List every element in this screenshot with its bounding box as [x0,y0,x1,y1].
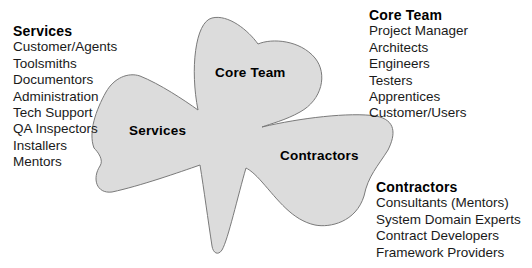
contractors-group: Contractors Consultants (Mentors) System… [376,179,521,261]
core-team-title: Core Team [369,7,468,23]
list-item: Toolsmiths [13,56,117,72]
lobe-label-contractors: Contractors [280,148,359,163]
services-title: Services [13,23,117,39]
list-item: Installers [13,138,117,154]
list-item: Testers [369,73,468,89]
list-item: QA Inspectors [13,121,117,137]
contractors-title: Contractors [376,179,521,195]
list-item: Tech Support [13,105,117,121]
list-item: Architects [369,40,468,56]
list-item: Customer/Agents [13,39,117,55]
list-item: Consultants (Mentors) [376,195,521,211]
services-group: Services Customer/Agents Toolsmiths Docu… [13,23,117,171]
list-item: System Domain Experts [376,212,521,228]
core-team-group: Core Team Project Manager Architects Eng… [369,7,468,122]
list-item: Engineers [369,56,468,72]
list-item: Documentors [13,72,117,88]
list-item: Contract Developers [376,228,521,244]
list-item: Apprentices [369,89,468,105]
lobe-label-core-team: Core Team [215,65,286,80]
list-item: Framework Providers [376,245,521,261]
list-item: Customer/Users [369,105,468,121]
list-item: Mentors [13,154,117,170]
lobe-label-services: Services [129,123,186,138]
list-item: Administration [13,89,117,105]
list-item: Project Manager [369,23,468,39]
